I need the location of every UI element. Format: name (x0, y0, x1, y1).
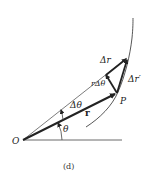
delta-theta-arc (61, 110, 63, 120)
theta-arc (58, 123, 62, 140)
r-label: r (85, 108, 90, 118)
point-label: P (119, 96, 127, 106)
theta-label: θ (63, 124, 69, 134)
polar-displacement-diagram: O P r θ Δθ Δr Δr′ rΔθ (d) (0, 0, 151, 178)
r-vector (23, 94, 115, 140)
delta-r-prime-label: Δr′ (127, 74, 141, 84)
figure-caption: (d) (63, 162, 74, 171)
delta-theta-label: Δθ (69, 100, 82, 110)
origin-label: O (12, 136, 20, 146)
r-delta-theta-vector (106, 75, 117, 93)
delta-r-label: Δr (99, 55, 111, 65)
r-delta-theta-label: rΔθ (91, 79, 106, 88)
